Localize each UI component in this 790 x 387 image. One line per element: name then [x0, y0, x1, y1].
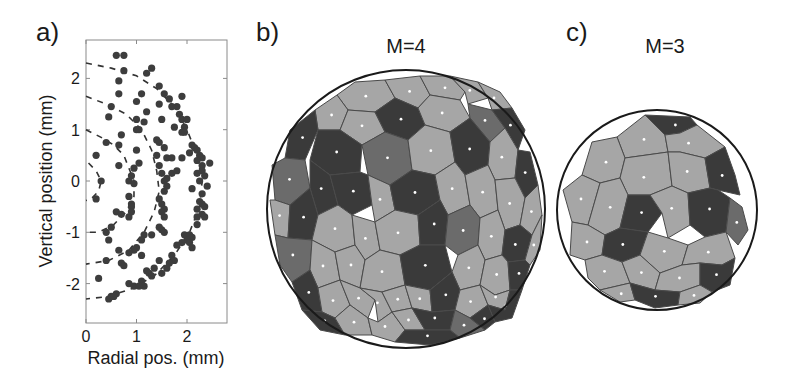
data-point	[168, 103, 175, 110]
data-point	[133, 98, 140, 105]
x-axis-label: Radial pos. (mm)	[87, 348, 224, 368]
voronoi-cell	[617, 115, 668, 158]
scatter-chart: -2-1012 012 Radial pos. (mm) Vertical po…	[0, 0, 250, 387]
cell-center-dot	[334, 227, 337, 230]
voronoi-cell	[368, 175, 395, 222]
voronoi-cell	[385, 76, 430, 108]
data-point	[103, 257, 110, 264]
data-point	[158, 270, 165, 277]
voronoi-cell	[310, 130, 362, 175]
cell-center-dot	[481, 191, 484, 194]
voronoi-cell	[445, 205, 480, 255]
voronoi-cell	[362, 132, 412, 185]
cell-center-dot	[396, 298, 399, 301]
voronoi-cell	[726, 198, 748, 245]
cell-center-dot	[418, 297, 421, 300]
voronoi-cell	[337, 80, 395, 112]
y-tick-label: 1	[71, 122, 80, 139]
cell-center-dot	[320, 187, 323, 190]
data-point	[125, 193, 132, 200]
data-point	[183, 116, 190, 123]
y-tick-label: 0	[71, 173, 80, 190]
data-point	[138, 252, 145, 259]
voronoi-cell	[480, 285, 510, 310]
data-point	[115, 141, 122, 148]
cell-center-dot	[484, 119, 487, 122]
voronoi-cell	[508, 260, 530, 290]
data-point	[118, 211, 125, 218]
voronoi-cell	[468, 104, 505, 142]
voronoi-cell	[292, 270, 322, 312]
cell-center-dot	[330, 114, 333, 117]
cell-center-dot	[386, 156, 389, 159]
cell-center-dot	[490, 235, 493, 238]
data-point	[133, 116, 140, 123]
voronoi-cell	[310, 240, 340, 288]
cell-center-dot	[424, 264, 427, 267]
cell-center-dot	[468, 89, 471, 92]
cell-center-dot	[429, 149, 432, 152]
voronoi-cell	[312, 205, 355, 252]
cell-center-dot	[426, 334, 429, 337]
cell-center-dot	[514, 243, 517, 246]
voronoi-cell	[408, 125, 455, 175]
data-point	[194, 157, 201, 164]
data-point	[161, 213, 168, 220]
cell-center-dot	[323, 320, 326, 323]
voronoi-cell	[492, 108, 525, 150]
data-point	[188, 244, 195, 251]
cell-center-dot	[444, 86, 447, 89]
panel-c-title: M=3	[615, 35, 715, 58]
particle-markers	[93, 52, 214, 303]
data-point	[105, 113, 112, 120]
data-point	[93, 195, 100, 202]
voronoi-cell	[495, 178, 525, 230]
voronoi-cell	[368, 312, 405, 342]
cell-center-dot	[397, 231, 400, 234]
data-point	[143, 70, 150, 77]
voronoi-cell	[450, 118, 490, 175]
cell-center-dot	[468, 148, 471, 151]
data-point	[130, 180, 137, 187]
cell-center-dot	[400, 118, 403, 121]
data-point	[120, 67, 127, 74]
voronoi-cell	[302, 310, 345, 335]
cell-center-dot	[441, 112, 444, 115]
voronoi-cell	[272, 158, 310, 205]
data-point	[206, 159, 213, 166]
data-point	[148, 65, 155, 72]
cell-center-dot	[500, 156, 503, 159]
voronoi-cell	[700, 258, 735, 292]
data-point	[156, 162, 163, 169]
data-point	[103, 139, 110, 146]
voronoi-cell	[330, 172, 372, 215]
data-point	[201, 172, 208, 179]
data-point	[108, 224, 115, 231]
voronoi-cell	[563, 175, 600, 225]
cell-center-dot	[508, 202, 511, 205]
data-point	[156, 257, 163, 264]
voronoi-cell	[360, 250, 405, 292]
voronoi-cell	[310, 160, 338, 215]
cell-center-dot	[707, 251, 710, 254]
data-point	[138, 90, 145, 97]
voronoi-cell	[622, 255, 660, 290]
voronoi-cell	[335, 305, 372, 335]
y-tick-label: -2	[66, 276, 80, 293]
cell-center-dot	[603, 270, 606, 273]
cell-center-dot	[278, 214, 281, 217]
panel-b-label: b)	[256, 17, 279, 48]
voronoi-cell	[585, 255, 630, 290]
voronoi-cell	[478, 82, 512, 110]
data-point	[201, 203, 208, 210]
voronoi-cell	[515, 150, 538, 198]
data-point	[115, 162, 122, 169]
cell-center-dot	[353, 321, 356, 324]
voronoi-cell	[340, 110, 385, 145]
cell-center-dot	[640, 211, 643, 214]
data-point	[168, 154, 175, 161]
data-point	[181, 129, 188, 136]
cell-center-dot	[524, 171, 527, 174]
voronoi-cell	[520, 185, 542, 235]
voronoi-cell	[412, 308, 455, 330]
